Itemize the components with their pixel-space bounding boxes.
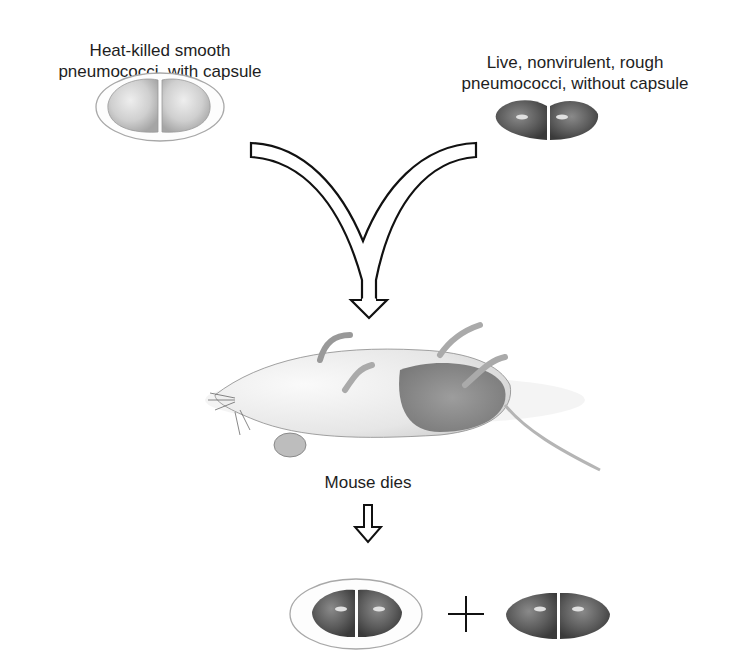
label-mouse-dies: Mouse dies [298, 472, 438, 493]
converging-arrow-icon [251, 143, 476, 318]
result-bacterium-unencapsulated [506, 593, 610, 639]
right-bacterium-unencapsulated [496, 100, 598, 140]
left-bacterium-encapsulated [96, 73, 224, 141]
down-arrow-icon [355, 505, 381, 542]
diagram-canvas [0, 0, 737, 656]
plus-icon [448, 596, 484, 632]
result-bacterium-encapsulated [290, 579, 422, 649]
dead-mouse-illustration [205, 325, 600, 470]
